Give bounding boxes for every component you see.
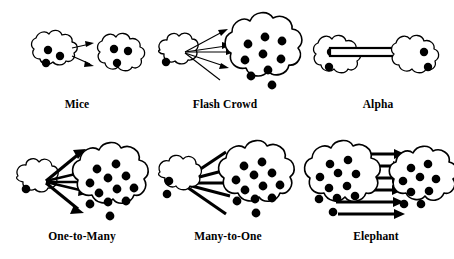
flash-crowd-target-dot	[277, 55, 286, 64]
many-to-one-source-dot	[240, 162, 249, 171]
mice-target-dot	[124, 47, 132, 55]
elephant-target-cloud	[389, 146, 454, 208]
one-to-many-target-dot	[86, 179, 95, 188]
flash-crowd-target-dot	[241, 56, 250, 65]
mice-source-dot	[42, 59, 50, 67]
many-to-one-source-dot	[232, 176, 241, 185]
one-to-many-target-dot	[104, 174, 113, 183]
panel-alpha: Alpha	[304, 16, 452, 112]
many-to-one-source-dot	[251, 195, 260, 204]
one-to-many-target-dot	[93, 165, 102, 174]
many-to-one-source-dot	[233, 197, 242, 206]
mice-illustration	[6, 16, 148, 94]
many-to-one-source-dot	[258, 158, 267, 167]
alpha-target-dot	[424, 63, 432, 71]
one-to-many-target-dot	[130, 184, 139, 193]
one-to-many-target-dot	[122, 172, 131, 181]
flash-crowd-target-dot	[278, 37, 287, 46]
many-to-one-source-dot	[276, 181, 285, 190]
one-to-many-target-dot	[122, 197, 131, 206]
panel-label-alpha: Alpha	[304, 98, 452, 110]
many-to-one-target-dot	[163, 190, 172, 199]
elephant-source-cloud	[305, 141, 381, 217]
elephant-source-dot	[343, 182, 352, 191]
alpha-target-dot	[420, 48, 428, 56]
panel-label-many-to-one: Many-to-One	[152, 230, 304, 242]
flash-crowd-target-dot	[268, 81, 277, 90]
elephant-source-dot	[326, 160, 335, 169]
flash-crowd-target-dot	[259, 50, 268, 59]
elephant-source-dot	[316, 173, 325, 182]
elephant-source-dot	[351, 192, 360, 201]
flash-crowd-target-dot	[244, 40, 253, 49]
panel-label-one-to-many: One-to-Many	[4, 230, 160, 242]
flash-crowd-target-dot	[247, 72, 256, 81]
one-to-many-target-dot	[113, 185, 122, 194]
elephant-target-dot	[432, 175, 441, 184]
flash-crowd-target-cloud	[225, 13, 302, 90]
flash-crowd-illustration	[148, 4, 302, 96]
panel-one-to-many: One-to-Many	[4, 136, 160, 244]
panel-many-to-one: Many-to-One	[152, 136, 304, 244]
alpha-source-dot	[325, 63, 333, 71]
elephant-target-dot	[399, 177, 408, 186]
elephant-source-dot	[344, 156, 353, 165]
one-to-many-target-cloud	[73, 143, 149, 221]
elephant-source-dot	[334, 169, 343, 178]
panel-label-mice: Mice	[6, 98, 148, 110]
one-to-many-target-dot	[95, 189, 104, 198]
many-to-one-source-dot	[241, 186, 250, 195]
elephant-illustration	[298, 136, 454, 232]
one-to-many-target-dot	[106, 212, 115, 221]
many-to-one-source-dot	[252, 209, 261, 218]
elephant-source-dot	[325, 184, 334, 193]
many-to-one-source-dot	[268, 194, 277, 203]
mice-source-dot	[44, 46, 52, 54]
elephant-source-dot	[329, 208, 338, 217]
many-to-one-source-dot	[250, 171, 259, 180]
one-to-many-target-dot	[86, 200, 95, 209]
panel-label-flash-crowd: Flash Crowd	[148, 98, 302, 110]
flash-crowd-source-cloud	[159, 33, 198, 66]
alpha-target-cloud	[392, 35, 439, 72]
elephant-target-dot	[424, 160, 433, 169]
many-to-one-target-dot	[165, 177, 174, 186]
elephant-source-dot	[333, 194, 342, 203]
traffic-pattern-diagram: Mice	[0, 0, 454, 259]
alpha-illustration	[304, 16, 452, 94]
one-to-many-illustration	[4, 136, 160, 232]
flash-crowd-target-dot	[264, 66, 273, 75]
mice-target-cloud	[98, 33, 145, 70]
one-to-many-target-dot	[112, 160, 121, 169]
panel-flash-crowd: Flash Crowd	[148, 4, 302, 112]
many-to-one-illustration	[152, 136, 304, 232]
elephant-target-dot	[416, 173, 425, 182]
one-to-many-target-dot	[104, 198, 113, 207]
elephant-source-dot	[315, 195, 324, 204]
flash-crowd-target-dot	[261, 33, 270, 42]
mice-source-dot	[56, 52, 64, 60]
panel-mice: Mice	[6, 16, 148, 112]
elephant-target-dot	[407, 188, 416, 197]
mice-target-dot	[113, 59, 121, 67]
many-to-one-source-dot	[268, 169, 277, 178]
one-to-many-source-dot	[22, 185, 31, 194]
flash-crowd-source-dot	[162, 58, 170, 66]
elephant-target-dot	[425, 187, 434, 196]
mice-source-cloud	[32, 30, 78, 67]
many-to-one-source-cloud	[219, 141, 295, 218]
panel-elephant: Elephant	[298, 136, 454, 244]
panel-label-elephant: Elephant	[298, 230, 454, 242]
elephant-target-dot	[407, 164, 416, 173]
mice-target-dot	[110, 45, 118, 53]
elephant-target-dot	[400, 200, 409, 209]
many-to-one-source-dot	[259, 182, 268, 191]
elephant-target-dot	[417, 200, 426, 209]
elephant-source-dot	[352, 170, 361, 179]
